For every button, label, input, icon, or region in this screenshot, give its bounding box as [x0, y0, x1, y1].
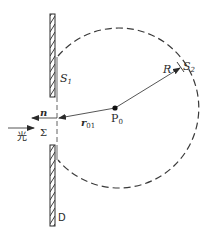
label-p0: P0: [111, 112, 123, 126]
label-s1: S1: [60, 72, 72, 86]
sphere-s2: [58, 28, 199, 188]
label-screen: D: [58, 212, 66, 223]
label-aperture: Σ: [40, 127, 47, 138]
label-r01: r01: [81, 117, 95, 130]
r01-arrow: [59, 108, 115, 118]
diffraction-diagram: S1 S2 R P0 n r01 Σ 光 D: [0, 0, 206, 235]
screen-lower: [50, 145, 55, 226]
point-p0: [112, 105, 117, 110]
label-normal: n: [40, 107, 47, 118]
label-radius: R: [162, 63, 171, 76]
radius-arrow: [115, 62, 184, 108]
label-light: 光: [17, 130, 27, 142]
label-s2: S2: [183, 60, 196, 74]
screen-upper: [50, 14, 55, 97]
